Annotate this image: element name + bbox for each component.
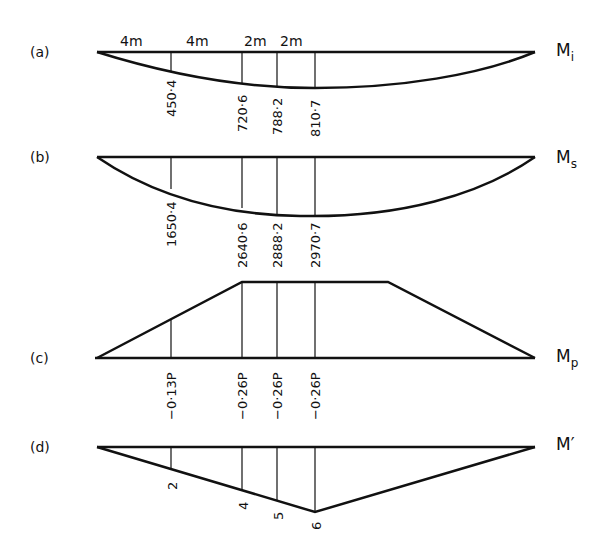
series-name: Mp — [556, 346, 578, 370]
value-label: 810·7 — [308, 100, 323, 137]
panel-a — [97, 52, 535, 88]
series-name: M′ — [556, 434, 575, 454]
value-label: 2888·2 — [270, 223, 285, 269]
panel-tag: (c) — [30, 350, 49, 366]
panel-b — [97, 157, 535, 216]
value-label: 6 — [309, 522, 324, 530]
series-name: Mi — [556, 40, 574, 64]
panel-tag: (b) — [30, 149, 50, 165]
value-label: −0·26P — [270, 372, 285, 420]
value-label: 1650·4 — [164, 202, 179, 248]
value-label: 720·6 — [235, 95, 250, 132]
value-label: −0·26P — [308, 372, 323, 420]
panel-d — [97, 447, 535, 512]
panel-c — [95, 282, 535, 358]
value-label: 2640·6 — [235, 223, 250, 269]
moment-diagrams: 4m 4m 2m 2m (a) Mi 450·4 720·6 788·2 810… — [0, 0, 604, 548]
span-label: 2m — [244, 33, 267, 49]
span-label: 2m — [280, 33, 303, 49]
value-label: −0·13P — [164, 372, 179, 420]
value-label: 2970·7 — [308, 223, 323, 269]
value-label: −0·26P — [235, 372, 250, 420]
value-label: 450·4 — [164, 80, 179, 117]
panel-tag: (a) — [30, 44, 50, 60]
series-name: Ms — [556, 147, 577, 171]
value-label: 4 — [236, 502, 251, 510]
span-label: 4m — [120, 33, 143, 49]
value-label: 788·2 — [270, 98, 285, 135]
span-label: 4m — [186, 33, 209, 49]
value-label: 5 — [271, 512, 286, 520]
value-label: 2 — [165, 482, 180, 490]
panel-tag: (d) — [30, 439, 50, 455]
